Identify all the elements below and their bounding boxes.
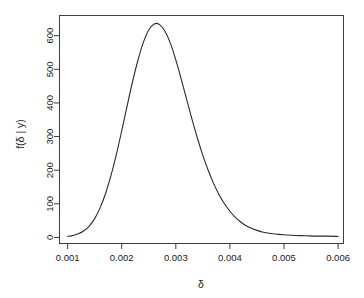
y-tick-label: 400 [44, 95, 55, 111]
y-tick-label: 500 [44, 61, 55, 77]
y-tick-label: 200 [44, 162, 55, 178]
x-tick-label: 0.006 [326, 252, 350, 263]
x-tick-label: 0.003 [164, 252, 188, 263]
x-tick-label: 0.002 [110, 252, 134, 263]
y-axis-title: f(δ | y) [14, 119, 26, 149]
x-tick-label: 0.001 [56, 252, 80, 263]
density-plot-figure: 0.0010.0020.0030.0040.0050.006 010020030… [0, 0, 364, 298]
plot-svg: 0.0010.0020.0030.0040.0050.006 010020030… [0, 0, 364, 298]
x-tick-label: 0.004 [218, 252, 242, 263]
y-tick-label: 100 [44, 196, 55, 212]
x-axis-title: δ [198, 278, 204, 290]
y-tick-label: 0 [44, 235, 55, 240]
y-tick-label: 300 [44, 129, 55, 145]
y-tick-label: 600 [44, 28, 55, 44]
x-tick-label: 0.005 [272, 252, 296, 263]
